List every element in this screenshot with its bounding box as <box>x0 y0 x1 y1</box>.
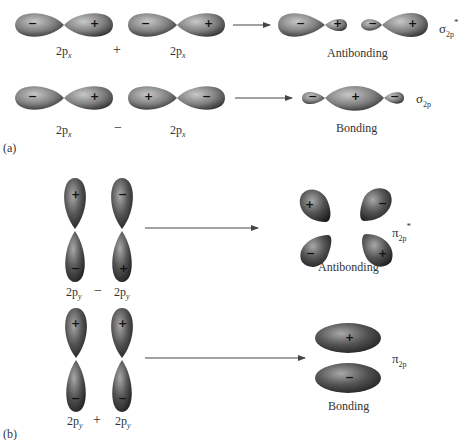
mo-subscript: 2p <box>446 30 454 39</box>
phase-sign: + <box>305 199 314 210</box>
mo-star: * <box>407 221 412 231</box>
phase-sign: − <box>306 248 315 259</box>
result-caption-antibonding: Antibonding <box>318 261 379 273</box>
orbital-label-2py: 2py <box>115 415 131 430</box>
panel-label-b: (b) <box>3 428 17 440</box>
result-caption-bonding: Bonding <box>328 400 369 412</box>
orbital-label-2px: 2px <box>170 45 186 60</box>
phase-sign: + <box>90 91 99 102</box>
phase-sign: + <box>71 318 80 329</box>
phase-sign: − <box>71 263 80 274</box>
orbital-label-text: 2p <box>56 123 68 137</box>
phase-sign: − <box>202 91 211 102</box>
phase-sign: − <box>141 18 150 29</box>
mo-subscript: 2p <box>423 100 431 109</box>
mo-symbol: σ <box>416 91 423 106</box>
phase-sign: − <box>345 372 354 383</box>
orbital-label-text: 2p <box>66 285 78 299</box>
orbital-label-2px: 2px <box>170 124 186 139</box>
phase-sign: − <box>71 393 80 404</box>
lobe <box>64 13 113 36</box>
orbital-label-text: 2p <box>56 44 68 58</box>
mo-star: * <box>454 17 459 27</box>
orbital-label-text: 2p <box>115 414 127 428</box>
phase-sign: − <box>118 393 127 404</box>
orbital-label-text: 2p <box>67 414 79 428</box>
phase-sign: − <box>296 18 305 29</box>
operator-plus: + <box>93 413 101 427</box>
orbital-label-2py: 2py <box>114 286 130 301</box>
orbital-subscript: x <box>182 51 186 60</box>
phase-sign: − <box>308 91 317 102</box>
phase-sign: + <box>71 189 80 200</box>
mo-symbol: π <box>392 351 399 366</box>
orbital-subscript: x <box>68 51 72 60</box>
mo-symbol: σ <box>439 21 446 36</box>
orbital-subscript: x <box>182 130 186 139</box>
orbital-subscript: y <box>126 292 130 301</box>
phase-sign: + <box>408 18 417 29</box>
phase-sign: + <box>351 91 360 102</box>
phase-sign: + <box>119 263 128 274</box>
mo-subscript: 2p <box>399 234 407 243</box>
phase-sign: + <box>345 332 354 343</box>
orbital-subscript: y <box>79 421 83 430</box>
orbital-label-2py: 2py <box>67 415 83 430</box>
phase-sign: + <box>333 18 342 29</box>
phase-sign: − <box>368 18 377 29</box>
panel-label-a: (a) <box>3 142 16 154</box>
orbital-subscript: y <box>78 292 82 301</box>
operator-minus: − <box>94 284 102 298</box>
phase-sign: + <box>90 18 99 29</box>
phase-sign: − <box>378 198 387 209</box>
result-caption-antibonding: Antibonding <box>327 47 388 59</box>
result-caption-bonding: Bonding <box>336 122 377 134</box>
orbital-diagram-graphics <box>0 0 469 440</box>
mo-label-pi: π2p <box>392 352 407 369</box>
phase-sign: + <box>144 91 153 102</box>
phase-sign: + <box>118 318 127 329</box>
orbital-label-text: 2p <box>114 285 126 299</box>
phase-sign: − <box>28 91 37 102</box>
lobe <box>15 13 64 36</box>
phase-sign: − <box>118 189 127 200</box>
phase-sign: + <box>378 248 387 259</box>
orbital-subscript: x <box>68 130 72 139</box>
mo-label-sigma-star: σ2p* <box>439 18 459 39</box>
mo-label-sigma: σ2p <box>416 92 431 109</box>
operator-plus: + <box>113 43 121 57</box>
orbital-label-text: 2p <box>170 44 182 58</box>
phase-sign: + <box>204 18 213 29</box>
orbital-label-text: 2p <box>170 123 182 137</box>
phase-sign: − <box>28 18 37 29</box>
phase-sign: − <box>390 91 399 102</box>
orbital-subscript: y <box>127 421 131 430</box>
orbital-label-2px: 2px <box>56 45 72 60</box>
operator-minus: − <box>114 121 122 135</box>
orbital-label-2px: 2px <box>56 124 72 139</box>
mo-label-pi-star: π2p* <box>392 222 411 243</box>
mo-symbol: π <box>392 225 399 240</box>
orbital-label-2py: 2py <box>66 286 82 301</box>
mo-subscript: 2p <box>399 360 407 369</box>
